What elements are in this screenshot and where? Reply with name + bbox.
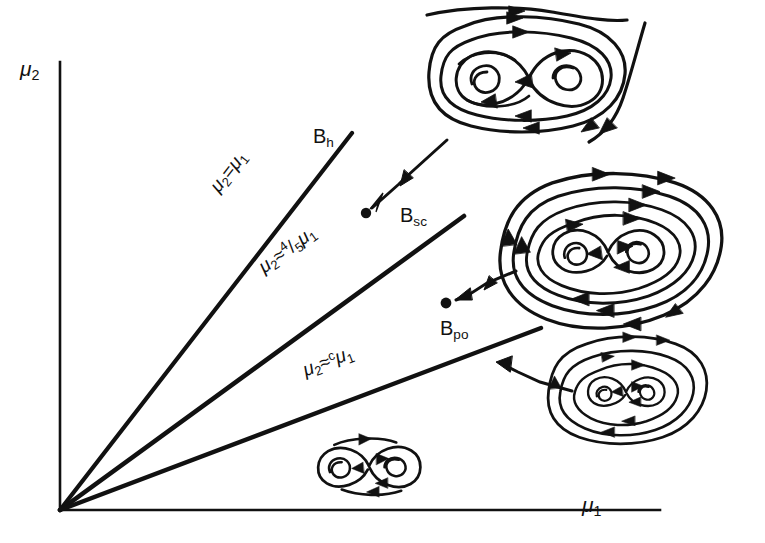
- x-axis-label: μ1: [582, 494, 601, 518]
- pointer-dot-middle: [441, 298, 452, 309]
- inset-phase-portrait-below-bpo: [318, 434, 420, 497]
- y-axis-label: μ2: [20, 58, 39, 82]
- branch-lines-group: [60, 133, 541, 510]
- inset-phase-portrait-between-bsc-bpo: [548, 332, 707, 444]
- inset-phase-portrait-between-bh-bsc: [500, 168, 722, 331]
- branch-label-bh: Bh: [313, 126, 334, 149]
- pointer-dot-top: [361, 208, 371, 218]
- branch-label-bsc: Bsc: [400, 205, 427, 228]
- inset-phase-portrait-above-bh: [427, 6, 645, 142]
- pointer-inset-middle: [441, 271, 516, 308]
- branch-label-bpo: Bpo: [440, 318, 468, 341]
- bifurcation-diagram-figure: μ2 μ1 Bh Bsc Bpo μ2=μ1 μ2≈4/5μ1 μ2≈cμ1: [0, 0, 765, 543]
- diagram-canvas: [0, 0, 765, 543]
